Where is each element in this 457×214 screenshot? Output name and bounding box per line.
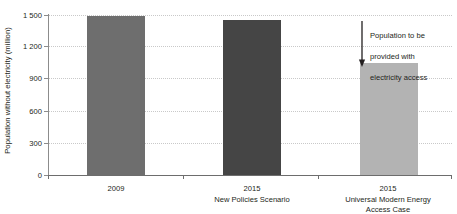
y-tick-label-1500: 1 500 — [23, 11, 42, 20]
x-label-line3: Access Case — [345, 205, 431, 214]
bar-2009 — [87, 16, 145, 175]
x-label-line2: New Policies Scenario — [214, 195, 290, 206]
y-tick-mark-300 — [44, 143, 48, 144]
bar-chart: Population without electricity (million)… — [0, 0, 457, 214]
down-arrow-icon — [357, 21, 367, 69]
y-tick-label-300: 300 — [29, 139, 42, 148]
x-tick-end — [451, 175, 452, 179]
x-tick-1 — [183, 175, 184, 179]
x-label-line2: Universal Modern Energy — [345, 195, 431, 206]
bar-2015-new-policies-scenario — [223, 20, 281, 175]
annotation-line3: electricity access — [370, 73, 427, 84]
y-axis-title: Population without electricity (million) — [0, 0, 14, 180]
annotation-text: Population to be provided with electrici… — [370, 20, 427, 94]
x-label-line1: 2015 — [345, 184, 431, 195]
y-tick-mark-1500 — [44, 15, 48, 16]
x-axis-label-2009: 2009 — [108, 184, 125, 195]
x-label-line1: 2009 — [108, 184, 125, 195]
y-axis-line — [48, 14, 49, 176]
y-axis-title-label: Population without electricity (million) — [3, 27, 12, 154]
annotation-line2: provided with — [370, 52, 427, 63]
y-tick-label-900: 900 — [29, 74, 42, 83]
y-tick-mark-900 — [44, 78, 48, 79]
x-axis-label-2015-universal-modern-energy-access-case: 2015 Universal Modern Energy Access Case — [345, 184, 431, 214]
x-tick-start — [48, 175, 49, 179]
x-tick-2 — [318, 175, 319, 179]
x-label-line1: 2015 — [214, 184, 290, 195]
y-tick-mark-1200 — [44, 46, 48, 47]
x-axis-label-2015-new-policies-scenario: 2015 New Policies Scenario — [214, 184, 290, 205]
y-tick-mark-600 — [44, 111, 48, 112]
cropped-title-remnant — [0, 0, 457, 3]
y-tick-label-600: 600 — [29, 107, 42, 116]
y-tick-label-0: 0 — [38, 171, 42, 180]
annotation-line1: Population to be — [370, 31, 427, 42]
y-tick-label-1200: 1 200 — [23, 42, 42, 51]
x-axis-line — [48, 175, 452, 176]
